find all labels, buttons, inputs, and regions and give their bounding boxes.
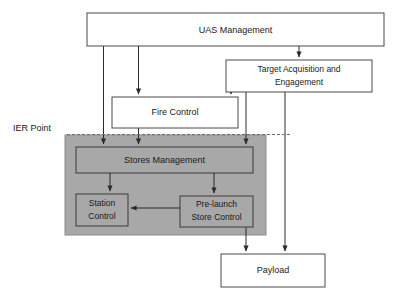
node-label-pre-launch-line2: Store Control (191, 212, 241, 222)
node-label-pre-launch-line1: Pre-launch (196, 199, 237, 209)
node-uas-management[interactable]: UAS Management (87, 13, 384, 46)
diagram-svg: UAS Management Target Acquisition and En… (0, 0, 396, 296)
node-stores-management[interactable]: Stores Management (76, 147, 253, 173)
node-station-control[interactable]: Station Control (76, 194, 128, 226)
node-label-target-acquisition-line1: Target Acquisition and (257, 64, 340, 74)
node-label-fire-control: Fire Control (151, 107, 198, 117)
ier-point-label: IER Point (13, 123, 52, 133)
node-label-target-acquisition-line2: Engagement (275, 77, 324, 87)
node-payload[interactable]: Payload (221, 254, 325, 287)
node-pre-launch-store-control[interactable]: Pre-launch Store Control (180, 196, 253, 227)
node-fire-control[interactable]: Fire Control (112, 97, 238, 128)
diagram-canvas: UAS Management Target Acquisition and En… (0, 0, 396, 296)
node-label-station-control-line2: Control (88, 211, 116, 221)
node-label-uas-management: UAS Management (199, 25, 273, 35)
node-label-stores-management: Stores Management (124, 155, 206, 165)
node-label-station-control-line1: Station (89, 198, 116, 208)
node-label-payload: Payload (257, 265, 290, 275)
node-target-acquisition-and-engagement[interactable]: Target Acquisition and Engagement (226, 60, 372, 92)
